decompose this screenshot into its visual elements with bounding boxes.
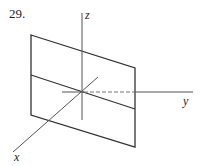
x-axis	[13, 77, 98, 152]
x-axis-label: x	[14, 150, 19, 165]
figure: 29. z y x	[0, 0, 208, 166]
problem-number: 29.	[9, 6, 25, 22]
diagram-svg	[0, 0, 208, 166]
plane-outline	[31, 35, 135, 147]
z-axis-label: z	[85, 8, 90, 23]
y-axis-label: y	[183, 94, 188, 109]
